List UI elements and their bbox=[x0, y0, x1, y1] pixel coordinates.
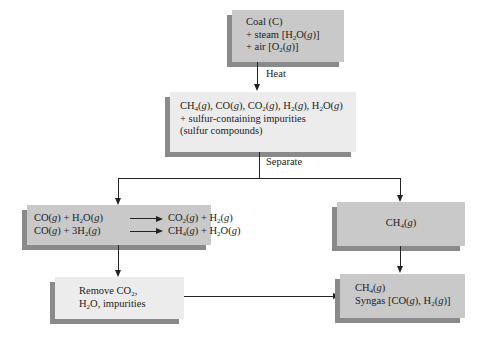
right-branch-arrowhead bbox=[397, 195, 403, 202]
heat-arrowhead bbox=[254, 84, 260, 91]
methane-to-product-arrowhead bbox=[397, 266, 403, 273]
left-branch-line bbox=[118, 178, 119, 198]
coal-input-box: Coal (C) + steam [H2O(g)] + air [O2(g)] bbox=[232, 10, 344, 62]
shift-reactions-box: CO(g) + H2O(g)CO2(g) + H2(g) CO(g) + 3H2… bbox=[27, 205, 211, 245]
removal-box: Remove CO2, H2O, impurities bbox=[55, 277, 184, 319]
coal-line-1: Coal (C) bbox=[246, 16, 320, 29]
reaction-2: CO(g) + 3H2(g)CH4(g) + H2O(g) bbox=[34, 225, 240, 238]
coal-input-text: Coal (C) + steam [H2O(g)] + air [O2(g)] bbox=[246, 16, 320, 54]
removal-to-product-line bbox=[184, 296, 334, 297]
heat-connector bbox=[257, 62, 258, 84]
shift-to-removal-arrowhead bbox=[115, 270, 121, 277]
reaction-arrow-icon bbox=[126, 212, 168, 225]
shift-to-removal-line bbox=[118, 245, 119, 270]
reaction-arrow-icon bbox=[126, 225, 168, 238]
raw-gas-text: CH4(g), CO(g), CO2(g), H2(g), H2O(g) + s… bbox=[180, 100, 343, 138]
right-branch-line bbox=[400, 178, 401, 195]
product-box: CH4(g) Syngas [CO(g), H2(g)] bbox=[340, 274, 465, 318]
coal-line-2: + steam [H2O(g)] bbox=[246, 29, 320, 42]
methane-to-product-line bbox=[400, 246, 401, 266]
reactions-text: CO(g) + H2O(g)CO2(g) + H2(g) CO(g) + 3H2… bbox=[34, 212, 240, 237]
removal-line-1: Remove CO2, bbox=[79, 285, 146, 298]
methane-text: CH4(g) bbox=[337, 217, 465, 230]
raw-gas-line-3: (sulfur compounds) bbox=[180, 125, 343, 138]
raw-gas-line-1: CH4(g), CO(g), CO2(g), H2(g), H2O(g) bbox=[180, 100, 343, 113]
removal-text: Remove CO2, H2O, impurities bbox=[79, 285, 146, 310]
product-line-2: Syngas [CO(g), H2(g)] bbox=[355, 295, 450, 308]
coal-line-3: + air [O2(g)] bbox=[246, 41, 320, 54]
product-line-1: CH4(g) bbox=[355, 282, 450, 295]
product-text: CH4(g) Syngas [CO(g), H2(g)] bbox=[355, 282, 450, 307]
reaction-1: CO(g) + H2O(g)CO2(g) + H2(g) bbox=[34, 212, 240, 225]
raw-gas-line-2: + sulfur-containing impurities bbox=[180, 113, 343, 126]
split-horizontal-line bbox=[118, 178, 401, 179]
separate-connector bbox=[259, 152, 260, 178]
methane-box: CH4(g) bbox=[337, 202, 465, 246]
removal-line-2: H2O, impurities bbox=[79, 298, 146, 311]
heat-label: Heat bbox=[266, 68, 286, 79]
raw-gas-box: CH4(g), CO(g), CO2(g), H2(g), H2O(g) + s… bbox=[170, 92, 356, 152]
separate-label: Separate bbox=[266, 156, 302, 167]
removal-to-product-arrowhead bbox=[333, 293, 340, 299]
left-branch-arrowhead bbox=[115, 198, 121, 205]
